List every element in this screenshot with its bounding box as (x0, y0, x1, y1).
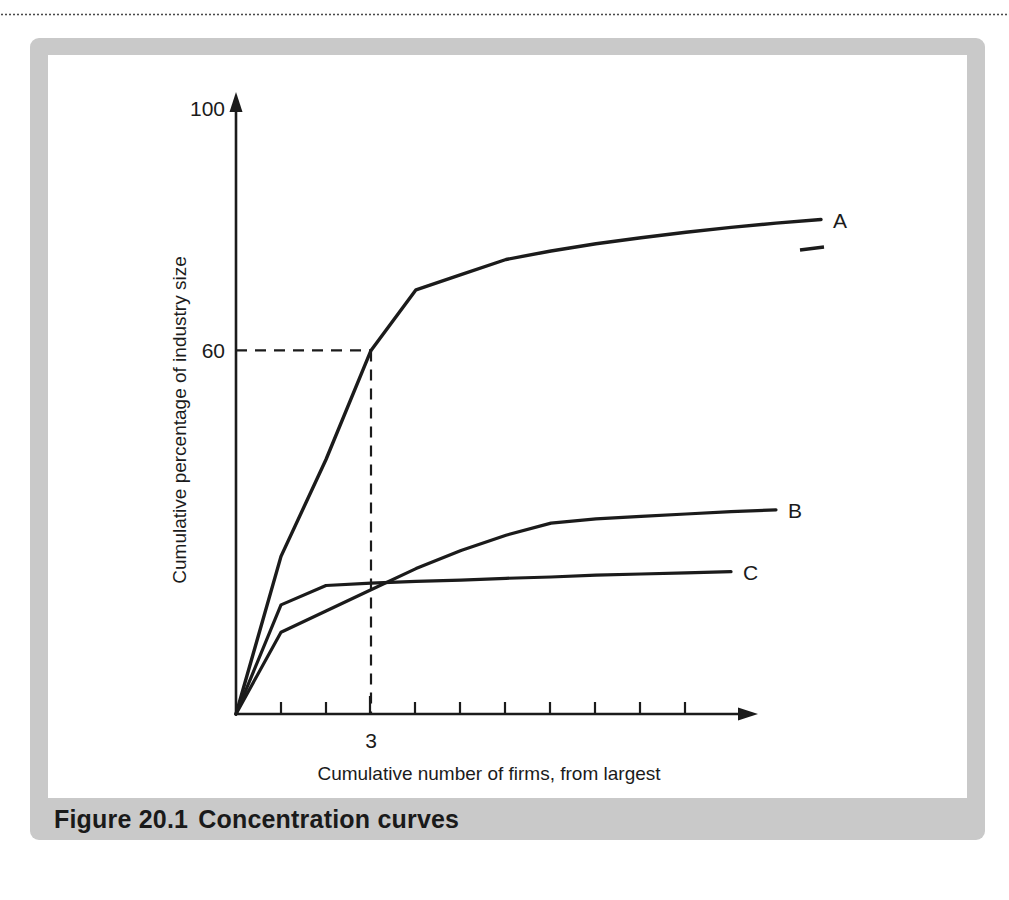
figure-caption-number: Figure 20.1 (54, 805, 188, 833)
figure-plot-background (48, 55, 967, 798)
page-separator-rule (0, 13, 1009, 16)
figure-frame: Figure 20.1Concentration curves (30, 38, 985, 840)
clipped-running-head (600, 0, 1000, 4)
figure-caption: Figure 20.1Concentration curves (54, 805, 459, 834)
page-canvas: Figure 20.1Concentration curves (0, 0, 1009, 900)
figure-caption-title: Concentration curves (198, 805, 459, 833)
